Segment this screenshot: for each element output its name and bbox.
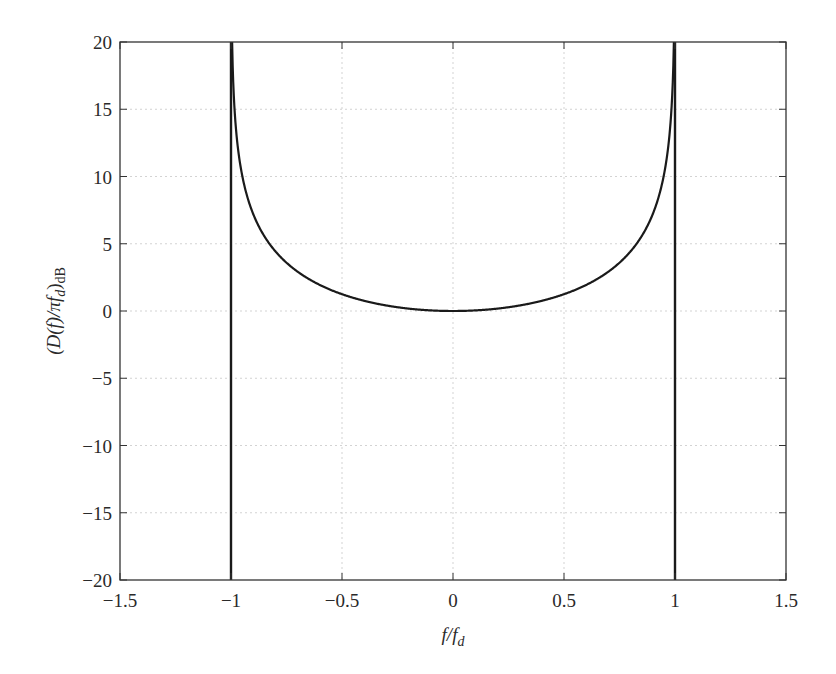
x-axis-label: f/fd xyxy=(442,624,466,649)
y-tick-label: 15 xyxy=(93,99,112,120)
y-tick-label: 20 xyxy=(93,32,112,53)
y-tick-label: 5 xyxy=(103,234,113,255)
y-tick-label: 10 xyxy=(93,167,112,188)
y-axis-label: (D(f)/πfd)dB xyxy=(43,267,68,355)
x-tick-label: 0 xyxy=(448,590,458,611)
y-tick-label: −10 xyxy=(82,436,112,457)
y-tick-labels: 20151050−5−10−15−20 xyxy=(82,32,112,591)
x-tick-label: −1 xyxy=(221,590,241,611)
y-tick-label: 0 xyxy=(103,301,113,322)
y-tick-label: −15 xyxy=(82,503,112,524)
x-tick-labels: −1.5−1−0.500.511.5 xyxy=(103,590,798,611)
x-tick-label: −0.5 xyxy=(325,590,359,611)
y-tick-label: −20 xyxy=(82,570,112,591)
chart-canvas: −1.5−1−0.500.511.5 20151050−5−10−15−20 f… xyxy=(0,0,836,674)
x-tick-label: 1 xyxy=(670,590,680,611)
x-tick-label: 0.5 xyxy=(552,590,576,611)
x-tick-label: −1.5 xyxy=(103,590,137,611)
x-tick-label: 1.5 xyxy=(774,590,798,611)
y-tick-label: −5 xyxy=(92,368,112,389)
